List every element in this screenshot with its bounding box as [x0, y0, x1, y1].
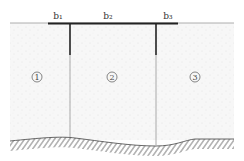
- svg-text:1: 1: [34, 73, 39, 82]
- label-b1: b₁: [53, 11, 62, 21]
- soil-profile-diagram: b₁ b₂ b₃ 1 2 3: [0, 0, 244, 161]
- svg-text:2: 2: [109, 73, 114, 82]
- soil-region: [10, 23, 234, 140]
- label-b2: b₂: [103, 11, 113, 21]
- label-b3: b₃: [163, 11, 173, 21]
- bedrock-hatch: [10, 137, 234, 156]
- svg-text:3: 3: [192, 73, 197, 82]
